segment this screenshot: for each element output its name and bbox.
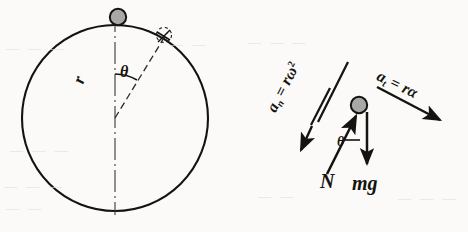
hoop-group xyxy=(22,9,208,215)
figure-vector-layer xyxy=(0,0,468,232)
bead-on-hoop xyxy=(110,9,126,25)
normal-force-label-N: N xyxy=(320,170,334,193)
weight-label-mg: mg xyxy=(352,172,378,195)
bead-free-body xyxy=(351,97,367,113)
free-body-group xyxy=(301,62,440,174)
angle-label-theta-hoop: θ xyxy=(120,63,128,81)
angle-label-theta-fbd: θ xyxy=(337,134,344,150)
figure-canvas: — — — — — — — — — — — — — — — — — — — — … xyxy=(0,0,468,232)
an-guide-stroke-outer xyxy=(318,62,348,122)
an-vector-arrow xyxy=(301,126,312,150)
an-equals: = xyxy=(271,83,290,99)
